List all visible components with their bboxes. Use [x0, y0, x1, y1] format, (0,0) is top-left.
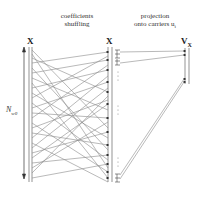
- left-column-bar: [29, 47, 32, 182]
- projection-lines: [120, 51, 184, 179]
- middle-column-bar: [108, 47, 112, 182]
- shuffle-lines: [32, 50, 108, 182]
- carrier-ellipsis: [118, 72, 119, 167]
- top-carrier-group: [115, 50, 120, 65]
- bottom-carrier-group: [115, 174, 120, 182]
- length-arrow: [23, 47, 26, 179]
- shuffle-diagram: [0, 0, 200, 205]
- vx-column-bar: [185, 48, 189, 84]
